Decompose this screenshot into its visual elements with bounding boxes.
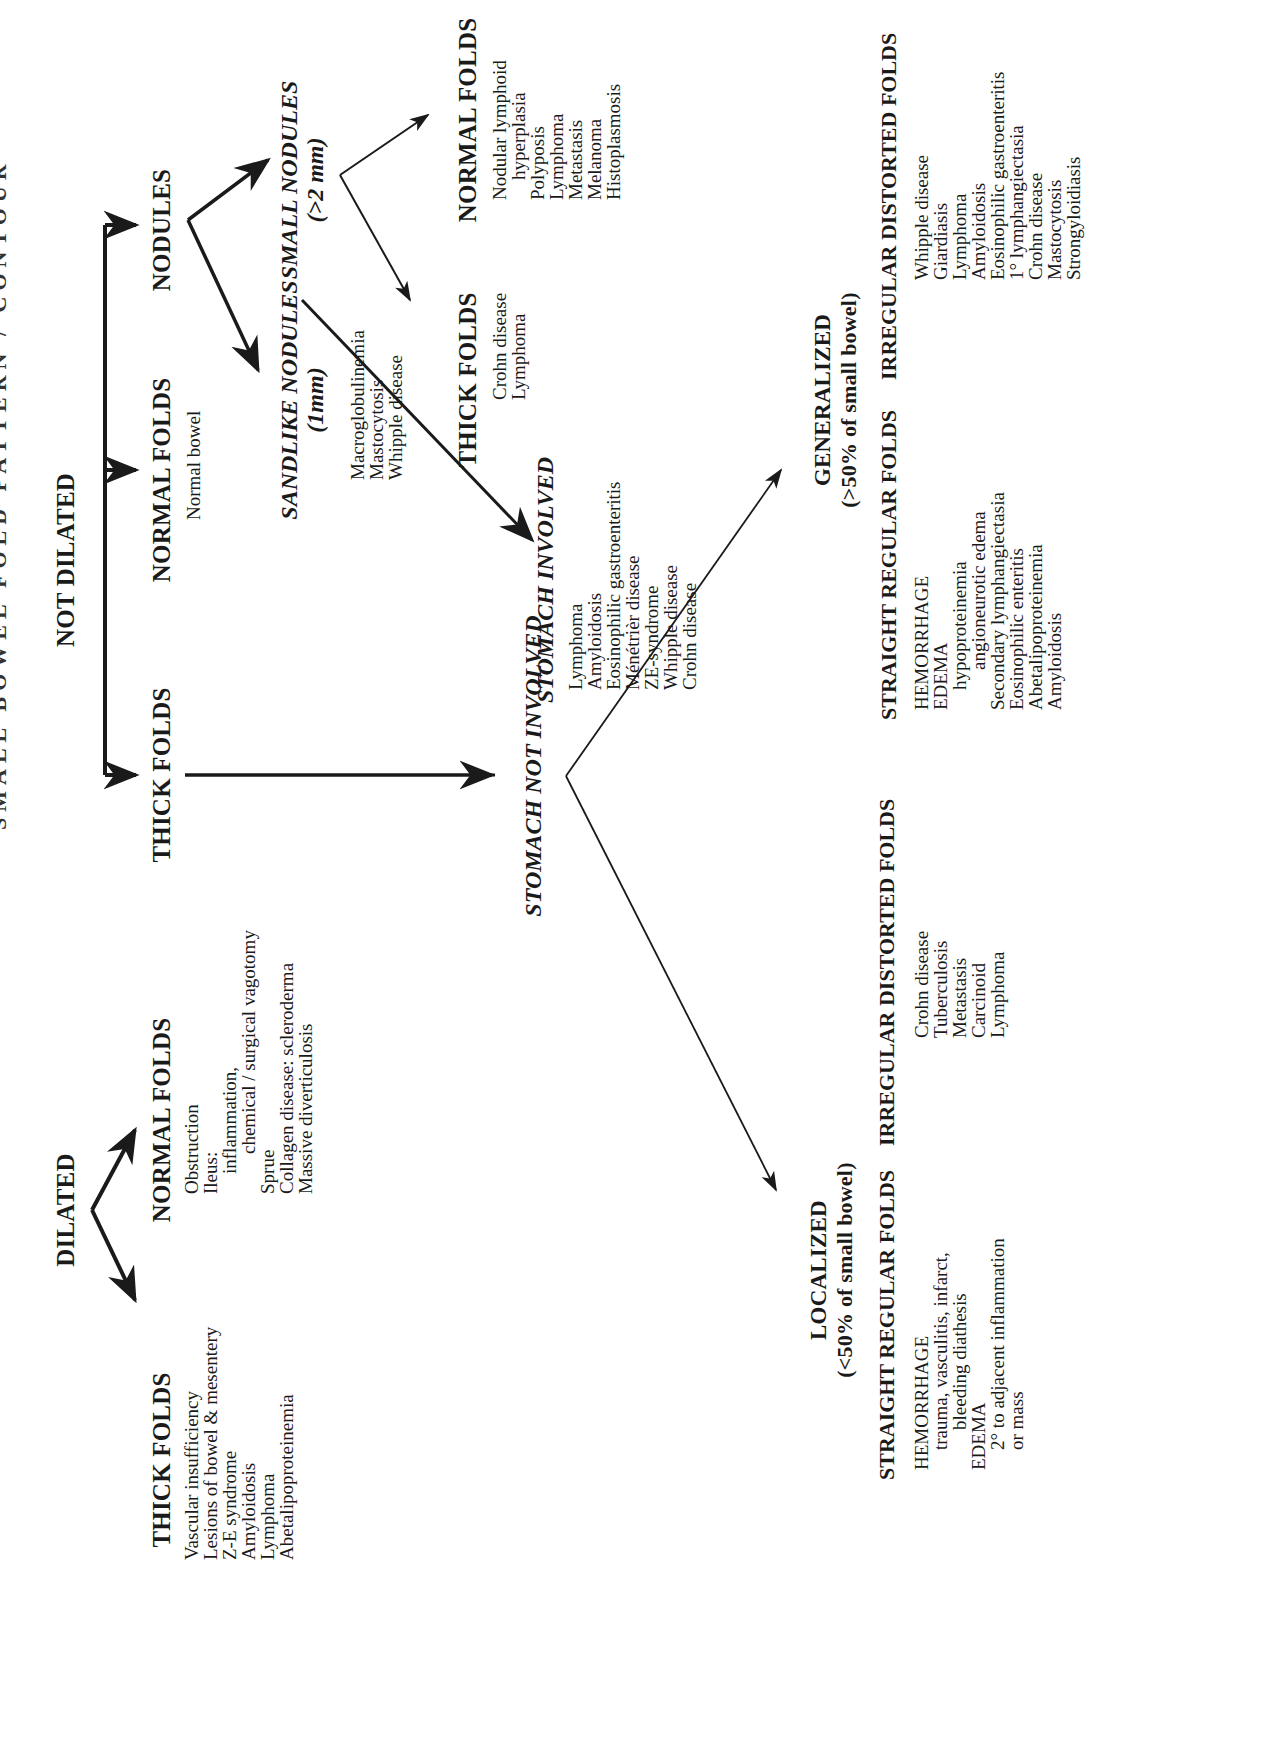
localized-heading: LOCALIZED [806, 1200, 832, 1340]
list-item: Vascular insufficiency [182, 1327, 201, 1560]
dilated-label: DILATED [52, 1153, 80, 1266]
list-item: inflammation, [220, 930, 239, 1194]
list-item: Macroglobulinemia [348, 330, 367, 480]
list-item: EDEMA [969, 1238, 988, 1470]
list-item: Crohn disease [1026, 72, 1045, 280]
localized-irregular-distorted-list: Crohn disease Tuberculosis Metastasis Ca… [912, 931, 1007, 1038]
list-item: Normal bowel [184, 411, 203, 520]
list-item: 2° to adjacent inflammation [988, 1238, 1007, 1470]
dilated-branches [92, 1130, 135, 1300]
list-item: Crohn disease [912, 931, 931, 1038]
localized-straight-regular-heading: STRAIGHT REGULAR FOLDS [874, 1170, 900, 1480]
list-item: Eosinophilic gastroenteritis [988, 72, 1007, 280]
list-item: Ménétrièr disease [623, 482, 642, 690]
nodules-heading: NODULES [148, 169, 176, 291]
list-item: Mastocytosis [1045, 72, 1064, 280]
small-nodules-thick-folds-list: Crohn disease Lymphoma [490, 293, 528, 400]
list-item: Lymphoma [547, 60, 566, 200]
list-item: hyperplasia [509, 60, 528, 200]
list-item: Amyloidosis [239, 1327, 258, 1560]
list-item: Abetalipoproteinemia [277, 1327, 296, 1560]
list-item: Crohn disease [680, 482, 699, 690]
stomach-involved-list: Lymphoma Amyloidosis Eosinophilic gastro… [566, 482, 699, 690]
flowchart-canvas: SMALL BOWEL FOLD PATTERN / CONTOUR DILAT… [0, 0, 1263, 1756]
list-item: Eosinophilic enteritis [1007, 492, 1026, 710]
sandlike-nodules-size: (1mm) [302, 367, 328, 432]
list-item: hypoproteinemia [950, 492, 969, 710]
dilated-thick-folds-heading: THICK FOLDS [148, 1372, 176, 1547]
small-nodules-branches [340, 115, 428, 300]
list-item: EDEMA [931, 492, 950, 710]
list-item: Metastasis [566, 60, 585, 200]
nodules-branches [188, 160, 268, 370]
dilated-normal-folds-list: Obstruction Ileus: inflammation, chemica… [182, 930, 315, 1194]
generalized-subheading: (>50% of small bowel) [836, 292, 862, 507]
dilated-thick-folds-list: Vascular insufficiency Lesions of bowel … [182, 1327, 296, 1560]
list-item: Carcinoid [969, 931, 988, 1038]
list-item: Histoplasmosis [604, 60, 623, 200]
list-item: Whipple disease [912, 72, 931, 280]
list-item: Ileus: [201, 930, 220, 1194]
not-dilated-normal-folds-list: Normal bowel [184, 411, 203, 520]
not-dilated-label: NOT DILATED [52, 473, 80, 647]
list-item: Massive diverticulosis [296, 930, 315, 1194]
generalized-straight-regular-list: HEMORRHAGE EDEMA hypoproteinemia angione… [912, 492, 1064, 710]
list-item: Lesions of bowel & mesentery [201, 1327, 220, 1560]
list-item: Crohn disease [490, 293, 509, 400]
list-item: trauma, vasculitis, infarct, [931, 1238, 950, 1470]
not-dilated-thick-folds-heading: THICK FOLDS [148, 687, 176, 862]
list-item: angioneurotic edema [969, 492, 988, 710]
list-item: Strongyloidiasis [1064, 72, 1083, 280]
generalized-irregular-distorted-list: Whipple disease Giardiasis Lymphoma Amyl… [912, 72, 1083, 280]
list-item: Lymphoma [988, 931, 1007, 1038]
list-item: Sprue [258, 930, 277, 1194]
stomach-not-involved-heading: STOMACH NOT INVOLVED [520, 615, 546, 916]
sandlike-nodules-list: Macroglobulinemia Mastocytosis Whipple d… [348, 330, 405, 480]
not-dilated-bracket [105, 225, 136, 775]
generalized-irregular-distorted-heading: IRREGULAR DISTORTED FOLDS [876, 33, 902, 380]
list-item: Collagen disease: scleroderma [277, 930, 296, 1194]
list-item: Mastocytosis [367, 330, 386, 480]
list-item: Lymphoma [950, 72, 969, 280]
list-item: Amyloidosis [969, 72, 988, 280]
list-item: Amyloidosis [1045, 492, 1064, 710]
list-item: or mass [1007, 1238, 1026, 1470]
list-item: Lymphoma [566, 482, 585, 690]
list-item: Metastasis [950, 931, 969, 1038]
page-title-fragment: SMALL BOWEL FOLD PATTERN / CONTOUR [0, 158, 12, 830]
list-item: Whipple disease [661, 482, 680, 690]
list-item: Obstruction [182, 930, 201, 1194]
list-item: HEMORRHAGE [912, 492, 931, 710]
small-nodules-heading: SMALL NODULES [276, 81, 302, 279]
list-item: Lymphoma [258, 1327, 277, 1560]
list-item: 1° lymphangiectasia [1007, 72, 1026, 280]
list-item: Z-E syndrome [220, 1327, 239, 1560]
list-item: Tuberculosis [931, 931, 950, 1038]
list-item: HEMORRHAGE [912, 1238, 931, 1470]
list-item: Giardiasis [931, 72, 950, 280]
list-item: Whipple disease [386, 330, 405, 480]
not-dilated-normal-folds-heading: NORMAL FOLDS [148, 378, 176, 583]
small-nodules-size: (>2 mm) [302, 138, 328, 223]
list-item: Lymphoma [509, 293, 528, 400]
list-item: Amyloidosis [585, 482, 604, 690]
list-item: chemical / surgical vagotomy [239, 930, 258, 1194]
localized-irregular-distorted-heading: IRREGULAR DISTORTED FOLDS [874, 799, 900, 1146]
localized-straight-regular-list: HEMORRHAGE trauma, vasculitis, infarct, … [912, 1238, 1026, 1470]
localized-subheading: (<50% of small bowel) [832, 1162, 858, 1377]
list-item: bleeding diathesis [950, 1238, 969, 1470]
list-item: Abetalipoproteinemia [1026, 492, 1045, 710]
small-nodules-thick-folds-heading: THICK FOLDS [454, 292, 482, 467]
list-item: ZE-syndrome [642, 482, 661, 690]
generalized-heading: GENERALIZED [810, 314, 836, 486]
small-nodules-normal-folds-list: Nodular lymphoid hyperplasia Polyposis L… [490, 60, 623, 200]
small-nodules-normal-folds-heading: NORMAL FOLDS [454, 18, 482, 223]
list-item: Eosinophilic gastroenteritis [604, 482, 623, 690]
list-item: Secondary lymphangiectasia [988, 492, 1007, 710]
list-item: Melanoma [585, 60, 604, 200]
dilated-normal-folds-heading: NORMAL FOLDS [148, 1018, 176, 1223]
sandlike-nodules-heading: SANDLIKE NODULES [276, 280, 302, 519]
list-item: Polyposis [528, 60, 547, 200]
list-item: Nodular lymphoid [490, 60, 509, 200]
generalized-straight-regular-heading: STRAIGHT REGULAR FOLDS [876, 410, 902, 720]
